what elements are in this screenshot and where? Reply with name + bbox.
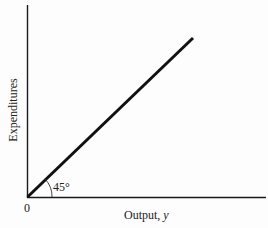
x-axis-label-variable: y bbox=[162, 208, 169, 222]
origin-label: 0 bbox=[24, 201, 30, 215]
diagram-figure: 45° 0 Expenditures Output, y bbox=[0, 0, 268, 228]
x-axis-label: Output, y bbox=[124, 208, 169, 222]
angle-label: 45° bbox=[53, 180, 70, 194]
x-axis-label-prefix: Output, bbox=[124, 208, 163, 222]
forty-five-degree-line bbox=[28, 38, 194, 197]
angle-arc bbox=[45, 179, 52, 197]
diagram-canvas: 45° 0 Expenditures Output, y bbox=[0, 0, 268, 228]
y-axis-label: Expenditures bbox=[6, 78, 20, 142]
